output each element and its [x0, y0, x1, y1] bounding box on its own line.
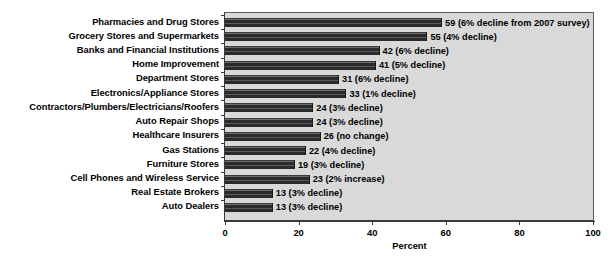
bar-row: 41 (5% decline): [225, 61, 593, 70]
category-tick: [221, 58, 225, 59]
bar-row: 31 (6% decline): [225, 75, 593, 84]
bar[interactable]: [225, 46, 380, 55]
bar-value-label: 59 (6% decline from 2007 survey): [445, 18, 590, 28]
category-label: Furniture Stores: [0, 159, 219, 169]
bar[interactable]: [225, 132, 321, 141]
category-label: Auto Repair Shops: [0, 116, 219, 126]
category-tick: [221, 129, 225, 130]
bar-value-label: 13 (3% decline): [276, 202, 342, 212]
category-tick: [221, 172, 225, 173]
bar-row: 13 (3% decline): [225, 203, 593, 212]
x-axis-line: [224, 221, 595, 222]
category-tick: [221, 29, 225, 30]
bar-value-label: 22 (4% decline): [309, 146, 375, 156]
bar-row: 24 (3% decline): [225, 118, 593, 127]
bar-chart: Pharmacies and Drug StoresGrocery Stores…: [0, 0, 608, 257]
x-tick-mark: [225, 221, 226, 225]
bar-value-label: 33 (1% decline): [349, 89, 415, 99]
bar-row: 24 (3% decline): [225, 103, 593, 112]
x-tick-mark: [593, 221, 594, 225]
bar-value-label: 42 (6% decline): [383, 46, 449, 56]
bar[interactable]: [225, 75, 339, 84]
bar[interactable]: [225, 146, 306, 155]
x-tick-mark: [372, 221, 373, 225]
bar-value-label: 26 (no change): [324, 131, 389, 141]
bar[interactable]: [225, 32, 427, 41]
category-tick: [221, 157, 225, 158]
category-tick: [221, 72, 225, 73]
bar-value-label: 41 (5% decline): [379, 60, 445, 70]
bar-row: 22 (4% decline): [225, 146, 593, 155]
bar[interactable]: [225, 89, 346, 98]
x-tick-label: 0: [205, 227, 245, 238]
category-tick: [221, 86, 225, 87]
category-tick: [221, 200, 225, 201]
category-label: Pharmacies and Drug Stores: [0, 17, 219, 27]
bar-row: 19 (3% decline): [225, 160, 593, 169]
bar[interactable]: [225, 189, 273, 198]
category-tick: [221, 100, 225, 101]
category-label: Auto Dealers: [0, 201, 219, 211]
category-label: Cell Phones and Wireless Service: [0, 173, 219, 183]
category-axis-labels: Pharmacies and Drug StoresGrocery Stores…: [0, 12, 219, 221]
category-tick: [221, 43, 225, 44]
category-label: Gas Stations: [0, 145, 219, 155]
x-tick-label: 100: [573, 227, 608, 238]
bar-row: 33 (1% decline): [225, 89, 593, 98]
x-tick-label: 40: [352, 227, 392, 238]
bar-value-label: 24 (3% decline): [316, 103, 382, 113]
bar[interactable]: [225, 203, 273, 212]
category-label: Home Improvement: [0, 59, 219, 69]
bar[interactable]: [225, 118, 313, 127]
category-tick: [221, 115, 225, 116]
x-axis-title: Percent: [224, 240, 595, 251]
bar-row: 42 (6% decline): [225, 46, 593, 55]
bar-row: 26 (no change): [225, 132, 593, 141]
category-label: Contractors/Plumbers/Electricians/Roofer…: [0, 102, 219, 112]
x-tick-label: 80: [499, 227, 539, 238]
category-label: Grocery Stores and Supermarkets: [0, 31, 219, 41]
category-label: Electronics/Appliance Stores: [0, 88, 219, 98]
x-tick-label: 20: [279, 227, 319, 238]
bar-row: 55 (4% decline): [225, 32, 593, 41]
category-tick: [221, 143, 225, 144]
category-label: Real Estate Brokers: [0, 187, 219, 197]
x-tick-mark: [519, 221, 520, 225]
x-tick-mark: [299, 221, 300, 225]
category-tick: [221, 186, 225, 187]
bar-value-label: 31 (6% decline): [342, 74, 408, 84]
bar-value-label: 23 (2% increase): [313, 174, 385, 184]
bar-value-label: 24 (3% decline): [316, 117, 382, 127]
category-label: Banks and Financial Institutions: [0, 45, 219, 55]
bar-row: 59 (6% decline from 2007 survey): [225, 18, 593, 27]
x-tick-mark: [446, 221, 447, 225]
category-label: Healthcare Insurers: [0, 130, 219, 140]
plot-area: 59 (6% decline from 2007 survey)55 (4% d…: [224, 12, 594, 221]
bar-value-label: 19 (3% decline): [298, 160, 364, 170]
bar[interactable]: [225, 175, 310, 184]
bar-row: 13 (3% decline): [225, 189, 593, 198]
x-tick-label: 60: [426, 227, 466, 238]
bar-value-label: 55 (4% decline): [430, 32, 496, 42]
bar-value-label: 13 (3% decline): [276, 188, 342, 198]
category-label: Department Stores: [0, 73, 219, 83]
bar[interactable]: [225, 18, 442, 27]
bar[interactable]: [225, 160, 295, 169]
bar[interactable]: [225, 103, 313, 112]
category-tick: [221, 15, 225, 16]
bar-row: 23 (2% increase): [225, 175, 593, 184]
bar[interactable]: [225, 61, 376, 70]
